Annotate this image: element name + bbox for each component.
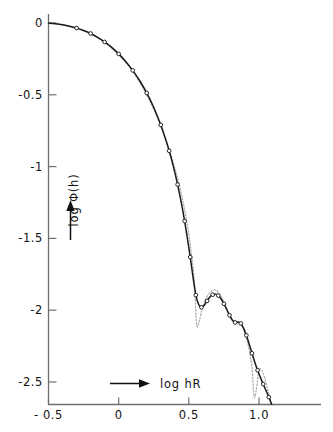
data-point-marker	[239, 322, 243, 326]
x-tick-label: 1.0	[249, 408, 269, 422]
data-point-marker	[159, 123, 163, 127]
data-point-marker	[261, 382, 265, 386]
x-axis-title: log hR	[160, 377, 201, 391]
data-point-marker	[183, 219, 187, 223]
theoretical-curve-path	[49, 23, 272, 405]
data-point-marker	[245, 333, 249, 337]
y-tick-label: -0.5	[18, 88, 43, 102]
y-tick-label: -2	[30, 303, 43, 317]
data-point-marker	[89, 32, 93, 36]
data-point-marker	[194, 293, 198, 297]
x-axis-ticks	[49, 398, 260, 405]
right-arrow-icon	[110, 379, 150, 387]
data-point-marker	[211, 293, 215, 297]
x-tick-label: 0.5	[179, 408, 199, 422]
y-axis-title: log Φ(h)	[67, 174, 81, 227]
data-point-marker	[131, 69, 135, 73]
data-point-marker	[256, 368, 260, 372]
data-point-marker	[188, 255, 192, 259]
data-point-marker	[167, 149, 171, 153]
data-point-marker	[250, 351, 254, 355]
figure-panel: - 0.500.51.0 0-0.5-1-1.5-2-2.5 log Φ(h) …	[0, 0, 333, 432]
data-point-marker	[267, 395, 271, 399]
x-axis-tick-labels: - 0.500.51.0	[34, 408, 269, 422]
y-tick-label: 0	[35, 16, 43, 30]
data-point-markers	[75, 26, 271, 399]
scatter-line-plot: - 0.500.51.0 0-0.5-1-1.5-2-2.5 log Φ(h) …	[0, 0, 333, 432]
x-tick-label: - 0.5	[34, 408, 63, 422]
y-tick-label: -2.5	[18, 375, 43, 389]
data-point-marker	[222, 302, 226, 306]
data-point-marker	[145, 91, 149, 95]
x-axis-title-group: log hR	[110, 377, 201, 391]
y-axis-tick-labels: 0-0.5-1-1.5-2-2.5	[18, 16, 43, 389]
data-point-marker	[200, 305, 204, 309]
data-point-marker	[75, 26, 79, 30]
data-point-marker	[117, 52, 121, 56]
data-point-marker	[103, 40, 107, 44]
series-theoretical-curve	[49, 23, 272, 405]
data-point-marker	[233, 321, 237, 325]
y-tick-label: -1	[30, 160, 43, 174]
y-axis-title-group: log Φ(h)	[66, 174, 81, 240]
data-point-marker	[228, 313, 232, 317]
data-point-marker	[216, 294, 220, 298]
y-axis-ticks	[49, 23, 57, 382]
y-tick-label: -1.5	[18, 231, 43, 245]
data-point-marker	[205, 299, 209, 303]
x-tick-label: 0	[115, 408, 123, 422]
series-experimental-curve	[49, 23, 272, 404]
experimental-curve-path	[49, 23, 272, 404]
data-point-marker	[176, 183, 180, 187]
